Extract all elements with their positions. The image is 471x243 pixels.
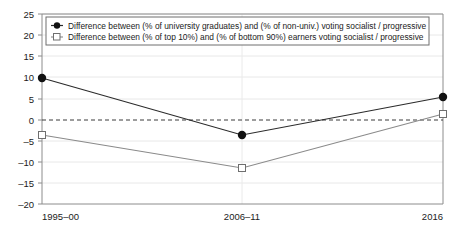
y-tick-label: –5 xyxy=(23,136,34,147)
x-tick-label: 2006–11 xyxy=(224,211,260,222)
data-point-marker xyxy=(38,74,46,82)
y-tick-label: 0 xyxy=(29,115,34,126)
y-tick-label: 20 xyxy=(23,30,34,41)
legend-label: Difference between (% of top 10%) and (%… xyxy=(68,32,424,42)
y-tick-label: 15 xyxy=(23,51,34,62)
data-point-marker xyxy=(39,132,46,139)
y-tick-label: –10 xyxy=(18,157,34,168)
x-tick-label: 1995–00 xyxy=(42,211,79,222)
y-tick-label: 5 xyxy=(29,94,34,105)
y-tick-label: 10 xyxy=(23,72,34,83)
legend-label: Difference between (% of university grad… xyxy=(68,21,426,31)
filled-circle-marker-icon xyxy=(54,22,60,28)
y-tick-label: 25 xyxy=(23,9,34,20)
chart-figure: 25 20 15 10 5 0 –5 –10 –15 –20 xyxy=(0,0,471,243)
legend-entry-graduates[interactable]: Difference between (% of university grad… xyxy=(51,21,426,31)
data-point-marker xyxy=(439,93,447,101)
open-square-marker-icon xyxy=(54,34,61,41)
data-point-marker xyxy=(440,111,447,118)
y-tick-label: –15 xyxy=(18,178,34,189)
legend-entry-top10[interactable]: Difference between (% of top 10%) and (%… xyxy=(51,32,424,42)
y-tick-label: –20 xyxy=(18,199,34,210)
data-point-marker xyxy=(238,131,246,139)
chart-legend: Difference between (% of university grad… xyxy=(46,17,429,45)
line-chart: 25 20 15 10 5 0 –5 –10 –15 –20 xyxy=(0,0,471,243)
data-point-marker xyxy=(239,165,246,172)
x-tick-label: 2016 xyxy=(422,211,443,222)
